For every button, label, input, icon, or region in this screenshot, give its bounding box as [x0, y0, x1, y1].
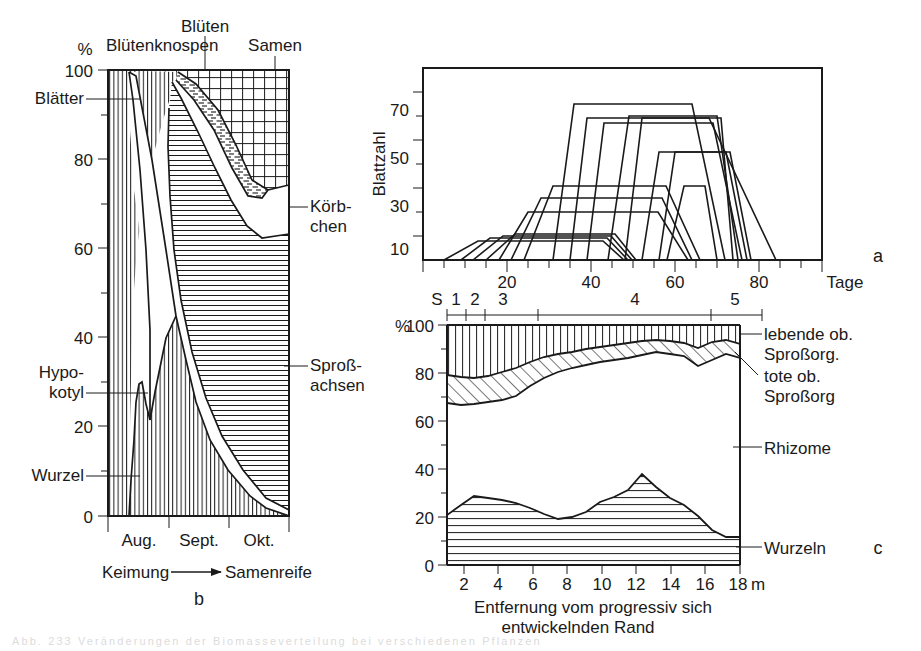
phase-label-s: S — [431, 290, 442, 309]
panel-a-ytick-30: 30 — [390, 197, 409, 216]
panel-c-xtick-4: 4 — [493, 575, 502, 594]
panel-c-areas — [447, 325, 740, 565]
panel-c-xtick-6: 6 — [528, 575, 537, 594]
phase-label-1: 1 — [451, 290, 460, 309]
label-lebende-ob-sprossorg-line2: Sproßorg. — [764, 345, 840, 364]
label-blueten: Blüten — [181, 17, 229, 36]
figure-bottom-caption: Abb. 233 Veränderungen der Biomasseverte… — [12, 635, 542, 647]
label-bluetenknospen: Blütenknospen — [106, 36, 218, 55]
panel-a-xlabel: Tage — [827, 273, 864, 292]
panel-c-xtick-8: 8 — [562, 575, 571, 594]
panel-c-xtick-16: 16 — [696, 575, 715, 594]
panel-a-letter: a — [873, 246, 884, 266]
panel-b-ytick-100: 100 — [65, 62, 93, 81]
panel-a-xtick-40: 40 — [582, 273, 601, 292]
figure-root: 100 80 60 40 20 0 % Aug. Sept. Okt. Keim… — [0, 0, 921, 651]
panel-c-xtick-10: 10 — [593, 575, 612, 594]
panel-b-ytick-80: 80 — [74, 151, 93, 170]
panel-a-ytick-50: 50 — [390, 149, 409, 168]
label-rhizome: Rhizome — [764, 439, 831, 458]
phase-label-5: 5 — [730, 290, 739, 309]
panel-c-xtick-18: 18 — [729, 575, 748, 594]
label-tote-ob-sprossorg-line2: Sproßorg — [764, 387, 835, 406]
label-sprossachsen-line1: Sproß- — [310, 356, 362, 375]
panel-c-xlabel-line1: Entfernung vom progressiv sich — [474, 598, 712, 617]
panel-c-ytick-20: 20 — [415, 509, 434, 528]
label-hypokotyl-line1: Hypo- — [39, 363, 84, 382]
phase-label-2: 2 — [470, 290, 479, 309]
panel-c-xtick-12: 12 — [627, 575, 646, 594]
panel-c-ytick-60: 60 — [415, 413, 434, 432]
panel-a-xtick-80: 80 — [750, 273, 769, 292]
panel-b-ytick-0: 0 — [84, 508, 93, 527]
panel-b-arrow-to-label: Samenreife — [225, 563, 312, 582]
label-samen: Samen — [248, 36, 302, 55]
panel-a-ylabel: Blattzahl — [370, 131, 389, 196]
panel-c-ytick-40: 40 — [415, 461, 434, 480]
label-sprossachsen-line2: achsen — [310, 376, 365, 395]
panel-c-xunit: m — [751, 575, 765, 594]
label-blaetter: Blätter — [35, 89, 84, 108]
label-wurzel: Wurzel — [31, 466, 84, 485]
panel-b-ytick-20: 20 — [74, 418, 93, 437]
phase-label-4: 4 — [630, 290, 639, 309]
panel-c-xtick-2: 2 — [459, 575, 468, 594]
panel-c-ytick-80: 80 — [415, 365, 434, 384]
panel-b-arrow-from-label: Keimung — [102, 563, 169, 582]
label-lebende-ob-sprossorg-line1: lebende ob. — [764, 325, 853, 344]
label-koerbchen-line2: chen — [310, 217, 347, 236]
panel-c-yaxis-unit: % — [395, 317, 410, 336]
panel-b-letter: b — [194, 589, 204, 609]
panel-c-ytick-0: 0 — [425, 557, 434, 576]
phase-label-3: 3 — [498, 290, 507, 309]
panel-c-letter: c — [874, 538, 883, 558]
label-koerbchen-line1: Körb- — [310, 197, 352, 216]
panel-b-ytick-40: 40 — [74, 329, 93, 348]
panel-a-xtick-60: 60 — [666, 273, 685, 292]
panel-a-ytick-70: 70 — [390, 101, 409, 120]
label-tote-ob-sprossorg-line1: tote ob. — [764, 367, 821, 386]
panel-a-ytick-10: 10 — [390, 240, 409, 259]
panel-b-xtick-okt: Okt. — [243, 531, 274, 550]
label-hypokotyl-line2: kotyl — [49, 383, 84, 402]
label-wurzeln: Wurzeln — [764, 539, 826, 558]
panel-b-ytick-60: 60 — [74, 240, 93, 259]
panel-b-xtick-aug: Aug. — [122, 531, 157, 550]
panel-b-xtick-sept: Sept. — [179, 531, 219, 550]
panel-b-yaxis-unit: % — [77, 40, 92, 59]
panel-c-xtick-14: 14 — [662, 575, 681, 594]
